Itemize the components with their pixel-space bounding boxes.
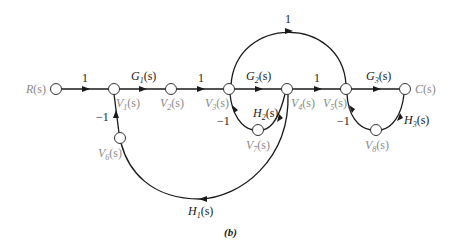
- label-v3: V3(s): [205, 96, 229, 112]
- label-v2: V2(s): [160, 96, 184, 112]
- gain-h3: H3(s): [403, 113, 429, 129]
- gain-g2: G2(s): [246, 69, 271, 85]
- gain-neg-v3: −1: [217, 114, 230, 128]
- label-v6: V6(s): [98, 146, 122, 162]
- label-v1: V1(s): [116, 96, 140, 112]
- gain-g3: G3(s): [366, 69, 391, 85]
- label-c: C(s): [415, 82, 436, 96]
- arrow-icon: [314, 86, 322, 92]
- node-r: [51, 84, 62, 95]
- gain-h2: H2(s): [252, 106, 278, 122]
- branch-v7-v3: [230, 94, 253, 130]
- node-v6: [115, 133, 126, 144]
- label-v4: V4(s): [291, 96, 315, 112]
- gain-r-v1: 1: [82, 71, 88, 85]
- gain-h1: H1(s): [187, 204, 213, 220]
- arrow-icon: [373, 86, 381, 92]
- gain-g1: G1(s): [131, 69, 156, 85]
- node-c: [400, 84, 411, 95]
- arrow-icon: [199, 196, 207, 202]
- branch-c-v8: [381, 94, 404, 130]
- label-v5: V5(s): [323, 96, 347, 112]
- node-v8: [371, 125, 382, 136]
- gain-neg-v1: −1: [96, 110, 109, 124]
- arrow-icon: [285, 28, 293, 34]
- node-v5: [341, 84, 352, 95]
- node-v1: [109, 84, 120, 95]
- node-v3: [224, 84, 235, 95]
- gain-v2-v3: 1: [198, 71, 204, 85]
- arrow-icon: [255, 86, 263, 92]
- signal-flow-graph: R(s) C(s) V1(s) V2(s) V3(s) V4(s) V5(s) …: [0, 0, 452, 249]
- branch-v8-v5: [347, 94, 371, 130]
- arrow-icon: [113, 110, 119, 118]
- arrow-icon: [139, 86, 147, 92]
- gain-feedforward: 1: [285, 12, 291, 26]
- arrow-icon: [197, 86, 205, 92]
- node-v7: [253, 125, 264, 136]
- gain-neg-v5: −1: [337, 114, 350, 128]
- gain-v4-v5: 1: [314, 71, 320, 85]
- label-v7: V7(s): [246, 138, 270, 154]
- arrow-icon: [82, 86, 90, 92]
- figure-caption: (b): [224, 226, 237, 239]
- node-v4: [282, 84, 293, 95]
- node-v2: [166, 84, 177, 95]
- label-r: R(s): [25, 82, 46, 96]
- label-v8: V8(s): [365, 138, 389, 154]
